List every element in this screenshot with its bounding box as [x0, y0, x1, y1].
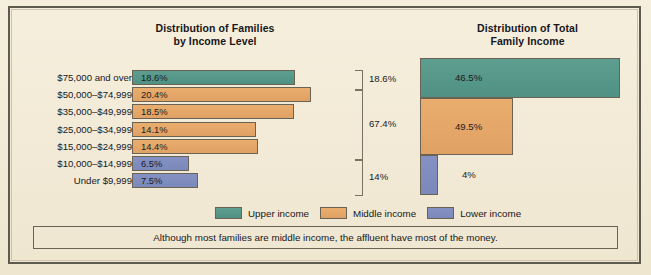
legend-item-middle: Middle income	[320, 207, 416, 219]
legend-swatch-upper	[215, 207, 242, 219]
income-row-label: $35,000–$49,999	[20, 105, 132, 119]
left-chart-title: Distribution of Families by Income Level	[120, 22, 310, 47]
income-bar-value: 18.6%	[141, 72, 168, 84]
bracket-label: 18.6%	[369, 73, 396, 84]
income-row: $50,000–$74,99920.4%	[20, 87, 350, 103]
income-bar-value: 14.1%	[141, 124, 168, 136]
chart-figure: Distribution of Families by Income Level…	[0, 0, 651, 275]
left-chart-title-line1: Distribution of Families	[120, 22, 310, 35]
total-income-bar-value: 49.5%	[455, 121, 482, 132]
income-bar: 6.5%	[132, 156, 189, 171]
income-row-label: $25,000–$34,999	[20, 123, 132, 137]
income-bar: 20.4%	[132, 87, 311, 102]
income-row-label: Under $9,999	[20, 174, 132, 188]
legend-label: Lower income	[460, 208, 521, 219]
legend-label: Upper income	[248, 208, 309, 219]
income-bar: 18.5%	[132, 104, 294, 119]
income-row: $15,000–$24,99914.4%	[20, 139, 350, 155]
legend-label: Middle income	[353, 208, 416, 219]
income-bar-value: 6.5%	[141, 158, 162, 170]
total-income-bar-value: 4%	[462, 169, 476, 180]
total-income-bar-value: 46.5%	[455, 72, 482, 83]
income-bar: 7.5%	[132, 173, 198, 188]
chart-legend: Upper incomeMiddle incomeLower income	[215, 205, 505, 221]
bracket-middle	[355, 90, 363, 160]
income-row: $25,000–$34,99914.1%	[20, 122, 350, 138]
income-bar: 14.1%	[132, 122, 256, 137]
total-income-bar	[420, 155, 438, 195]
legend-swatch-middle	[320, 207, 347, 219]
caption-box: Although most families are middle income…	[33, 226, 618, 249]
left-chart-plot-area: $75,000 and over18.6%$50,000–$74,99920.4…	[20, 70, 350, 195]
right-chart-title-line1: Distribution of Total	[440, 22, 615, 35]
income-row-label: $15,000–$24,999	[20, 140, 132, 154]
income-row: Under $9,9997.5%	[20, 173, 350, 189]
legend-swatch-lower	[427, 207, 454, 219]
income-bar: 18.6%	[132, 70, 295, 85]
left-chart-title-line2: by Income Level	[120, 35, 310, 48]
caption-text: Although most families are middle income…	[153, 232, 497, 243]
income-row: $35,000–$49,99918.5%	[20, 104, 350, 120]
legend-item-upper: Upper income	[215, 207, 309, 219]
income-bar-value: 14.4%	[141, 141, 168, 153]
right-chart-plot-area: 46.5%49.5%4%	[420, 58, 635, 196]
income-row: $10,000–$14,9996.5%	[20, 156, 350, 172]
income-bar: 14.4%	[132, 139, 258, 154]
right-chart-title: Distribution of Total Family Income	[440, 22, 615, 47]
income-bar-value: 20.4%	[141, 89, 168, 101]
total-income-bar	[420, 58, 620, 98]
income-bar-value: 18.5%	[141, 106, 168, 118]
bracket-lower	[355, 160, 363, 196]
income-row-label: $50,000–$74,999	[20, 88, 132, 102]
income-bar-value: 7.5%	[141, 175, 162, 187]
bracket-label: 14%	[369, 171, 388, 182]
income-row-label: $10,000–$14,999	[20, 157, 132, 171]
income-row-label: $75,000 and over	[20, 71, 132, 85]
bracket-label: 67.4%	[369, 118, 396, 129]
income-row: $75,000 and over18.6%	[20, 70, 350, 86]
legend-item-lower: Lower income	[427, 207, 521, 219]
bracket-upper	[355, 70, 363, 90]
right-chart-title-line2: Family Income	[440, 35, 615, 48]
